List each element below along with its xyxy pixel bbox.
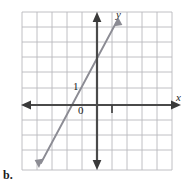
- origin-label: 0: [78, 104, 84, 116]
- y-axis-label: y: [116, 8, 121, 20]
- y-tick-label-one: 1: [73, 80, 79, 92]
- part-label-b: b.: [3, 168, 13, 183]
- graph-figure: y x 1 0: [0, 0, 188, 192]
- x-axis-label: x: [176, 91, 181, 103]
- coordinate-plane-svg: [0, 0, 188, 192]
